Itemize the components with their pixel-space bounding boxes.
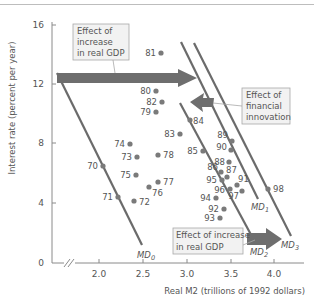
svg-text:80: 80 bbox=[140, 86, 151, 96]
svg-text:76: 76 bbox=[152, 188, 163, 198]
point-87 bbox=[224, 174, 229, 179]
svg-text:93: 93 bbox=[204, 213, 215, 223]
svg-text:financial: financial bbox=[246, 101, 282, 111]
point-84 bbox=[187, 117, 192, 122]
point-98 bbox=[265, 186, 270, 191]
md1-label: MD1 bbox=[251, 202, 269, 214]
svg-text:94: 94 bbox=[200, 193, 211, 203]
top-rule bbox=[0, 4, 314, 5]
svg-text:71: 71 bbox=[102, 192, 113, 202]
svg-text:97: 97 bbox=[228, 191, 239, 201]
point-72 bbox=[131, 198, 136, 203]
ytick-4: 4 bbox=[38, 198, 44, 208]
point-81 bbox=[158, 50, 163, 55]
svg-text:increase: increase bbox=[77, 37, 113, 47]
svg-text:70: 70 bbox=[87, 161, 98, 171]
svg-text:96: 96 bbox=[214, 185, 225, 195]
point-75 bbox=[133, 172, 138, 177]
ytick-16: 16 bbox=[33, 20, 45, 30]
point-70 bbox=[100, 163, 105, 168]
annotation-box-financial-innovation: Effect of financial innovation bbox=[242, 88, 291, 124]
svg-text:91: 91 bbox=[238, 174, 249, 184]
point-79 bbox=[153, 109, 158, 114]
ytick-12: 12 bbox=[33, 79, 44, 89]
svg-text:90: 90 bbox=[216, 142, 227, 152]
point-93 bbox=[217, 215, 222, 220]
svg-text:Effect of: Effect of bbox=[246, 90, 282, 100]
svg-text:72: 72 bbox=[139, 197, 150, 207]
svg-text:in real GDP: in real GDP bbox=[176, 242, 224, 252]
svg-text:Effect of increase: Effect of increase bbox=[176, 230, 250, 240]
svg-text:89: 89 bbox=[217, 130, 228, 140]
md3-label: MD3 bbox=[281, 240, 299, 252]
svg-text:75: 75 bbox=[120, 170, 131, 180]
svg-text:73: 73 bbox=[121, 152, 132, 162]
svg-text:85: 85 bbox=[187, 146, 198, 156]
point-90 bbox=[228, 147, 233, 152]
point-83 bbox=[177, 131, 182, 136]
svg-text:74: 74 bbox=[114, 139, 125, 149]
xtick-3-0: 3.0 bbox=[180, 269, 195, 279]
arrow-financial-innovation-icon bbox=[190, 93, 214, 112]
svg-text:87: 87 bbox=[226, 165, 237, 175]
annotation-box-gdp-top: Effect of increase in real GDP bbox=[73, 24, 129, 60]
ytick-0: 0 bbox=[38, 258, 44, 268]
xtick-4-0: 4.0 bbox=[267, 269, 282, 279]
xtick-2-0: 2.0 bbox=[92, 269, 107, 279]
svg-text:83: 83 bbox=[164, 129, 175, 139]
axis-break-icon bbox=[64, 259, 75, 267]
point-80 bbox=[153, 88, 158, 93]
xtick-3-5: 3.5 bbox=[224, 269, 238, 279]
point-94 bbox=[213, 195, 218, 200]
point-97 bbox=[239, 188, 244, 193]
point-78 bbox=[155, 152, 160, 157]
money-demand-chart: 16 12 8 4 0 2.0 2.5 3.0 3.5 4.0 Real M2 … bbox=[0, 0, 314, 304]
svg-text:79: 79 bbox=[140, 107, 151, 117]
svg-text:77: 77 bbox=[163, 177, 174, 187]
ytick-8: 8 bbox=[38, 138, 44, 148]
svg-text:in real GDP: in real GDP bbox=[77, 48, 125, 58]
leader-line-top bbox=[113, 60, 115, 73]
point-71 bbox=[115, 194, 120, 199]
md2-label: MD2 bbox=[250, 247, 268, 259]
y-axis-label: Interest rate (percent per year) bbox=[7, 41, 17, 174]
annotation-box-gdp-bottom: Effect of increase in real GDP bbox=[173, 228, 250, 254]
point-77 bbox=[155, 179, 160, 184]
svg-text:82: 82 bbox=[146, 97, 157, 107]
md-lines bbox=[57, 42, 291, 245]
arrow-gdp-top-icon bbox=[57, 69, 197, 87]
x-axis-label: Real M2 (trillions of 1992 dollars) bbox=[164, 286, 305, 296]
svg-text:78: 78 bbox=[163, 150, 174, 160]
point-89 bbox=[229, 138, 234, 143]
point-88 bbox=[226, 159, 231, 164]
chart-svg: 16 12 8 4 0 2.0 2.5 3.0 3.5 4.0 Real M2 … bbox=[0, 0, 314, 304]
point-95 bbox=[219, 177, 224, 182]
svg-text:88: 88 bbox=[214, 157, 225, 167]
point-74 bbox=[127, 141, 132, 146]
point-92 bbox=[221, 206, 226, 211]
svg-text:95: 95 bbox=[206, 175, 217, 185]
point-85 bbox=[200, 148, 205, 153]
svg-text:81: 81 bbox=[145, 48, 156, 58]
point-73 bbox=[134, 154, 139, 159]
point-76 bbox=[146, 184, 151, 189]
xtick-2-5: 2.5 bbox=[136, 269, 150, 279]
md0-label: MD0 bbox=[137, 250, 155, 262]
point-86 bbox=[218, 169, 223, 174]
svg-text:Effect of: Effect of bbox=[77, 26, 113, 36]
svg-text:98: 98 bbox=[273, 184, 284, 194]
leader-line-middle bbox=[213, 103, 242, 106]
svg-text:innovation: innovation bbox=[246, 112, 291, 122]
svg-text:84: 84 bbox=[193, 116, 204, 126]
point-82 bbox=[159, 99, 164, 104]
